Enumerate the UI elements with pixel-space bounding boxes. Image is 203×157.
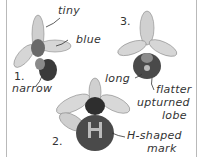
label-h-shaped: H-shaped	[127, 130, 182, 141]
label-tiny: tiny	[58, 5, 80, 16]
label-narrow: narrow	[12, 83, 52, 94]
label-blue: blue	[76, 34, 101, 45]
number-1: 1.	[14, 71, 25, 82]
number-3: 3.	[120, 16, 131, 27]
label-lobe: lobe	[162, 110, 187, 121]
number-2: 2.	[52, 136, 63, 147]
label-flatter: flatter	[156, 84, 192, 95]
orchid-2-drawing	[54, 78, 133, 151]
label-mark: mark	[147, 143, 177, 154]
label-long: long	[105, 73, 130, 84]
label-upturned: upturned	[137, 97, 190, 108]
